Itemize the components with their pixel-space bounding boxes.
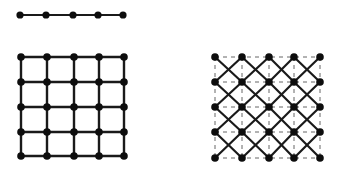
lattice-node	[17, 103, 25, 111]
lattice-node	[17, 78, 25, 86]
lattice-node	[70, 53, 78, 61]
lattice-node	[290, 103, 298, 111]
lattice-node	[43, 152, 51, 160]
lattice-node	[95, 103, 103, 111]
lattice-node	[70, 128, 78, 136]
lattice-node	[70, 103, 78, 111]
lattice-node	[95, 128, 103, 136]
lattice-diagram	[0, 0, 343, 175]
lattice-node	[95, 53, 103, 61]
lattice-node	[238, 103, 246, 111]
lattice-node	[265, 128, 273, 136]
lattice-node	[119, 11, 126, 18]
lattice-node	[211, 103, 219, 111]
lattice-node	[69, 11, 76, 18]
lattice-node	[211, 154, 219, 162]
lattice-node	[238, 154, 246, 162]
lattice-node	[43, 103, 51, 111]
lattice-node	[95, 152, 103, 160]
lattice-node	[120, 78, 128, 86]
background	[0, 0, 343, 175]
lattice-node	[70, 78, 78, 86]
lattice-node	[120, 103, 128, 111]
lattice-node	[17, 128, 25, 136]
lattice-node	[316, 53, 324, 61]
lattice-node	[290, 78, 298, 86]
lattice-node	[265, 154, 273, 162]
lattice-node	[43, 53, 51, 61]
lattice-node	[42, 11, 49, 18]
lattice-node	[316, 103, 324, 111]
lattice-node	[316, 154, 324, 162]
lattice-node	[316, 78, 324, 86]
lattice-node	[43, 128, 51, 136]
lattice-node	[238, 128, 246, 136]
lattice-node	[120, 152, 128, 160]
lattice-node	[316, 128, 324, 136]
lattice-node	[265, 103, 273, 111]
lattice-node	[290, 128, 298, 136]
lattice-node	[211, 128, 219, 136]
lattice-node	[265, 53, 273, 61]
lattice-node	[238, 78, 246, 86]
lattice-node	[211, 78, 219, 86]
lattice-node	[211, 53, 219, 61]
lattice-node	[17, 53, 25, 61]
lattice-node	[94, 11, 101, 18]
lattice-node	[95, 78, 103, 86]
lattice-node	[43, 78, 51, 86]
lattice-node	[70, 152, 78, 160]
lattice-node	[120, 53, 128, 61]
lattice-node	[290, 53, 298, 61]
lattice-node	[17, 152, 25, 160]
lattice-node	[120, 128, 128, 136]
lattice-node	[290, 154, 298, 162]
lattice-node	[16, 11, 23, 18]
lattice-node	[238, 53, 246, 61]
lattice-node	[265, 78, 273, 86]
